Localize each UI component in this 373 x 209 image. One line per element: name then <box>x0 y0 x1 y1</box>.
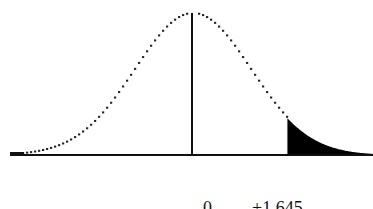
curve-dot <box>110 102 112 104</box>
curve-dot <box>66 141 68 143</box>
curve-dot <box>278 107 280 109</box>
curve-dot <box>198 13 200 15</box>
curve-dot <box>154 39 156 41</box>
critical-value-tick-label: +1.645 <box>252 199 303 209</box>
curve-dot <box>54 146 56 148</box>
curve-dot <box>258 80 260 82</box>
curve-dot <box>78 133 80 135</box>
curve-dot <box>238 50 240 52</box>
curve-dot <box>130 74 132 76</box>
curve-dot <box>274 102 276 104</box>
curve-dot <box>122 85 124 87</box>
curve-dot <box>138 62 140 64</box>
curve-dot <box>162 30 164 32</box>
curve-dot <box>202 14 204 16</box>
curve-dot <box>58 144 60 146</box>
curve-dot <box>178 16 180 18</box>
curve-dot <box>106 107 108 109</box>
curve-dot <box>206 16 208 18</box>
curve-dot <box>70 138 72 140</box>
curve-dot <box>214 22 216 24</box>
curve-dot <box>30 151 32 153</box>
curve-dot <box>166 26 168 28</box>
curve-dot <box>142 56 144 58</box>
curve-dot <box>86 127 88 129</box>
curve-dot <box>118 91 120 93</box>
curve-dot <box>186 13 188 15</box>
curve-dot <box>266 91 268 93</box>
curve-dot <box>170 22 172 24</box>
curve-dot <box>262 85 264 87</box>
curve-dot <box>210 19 212 21</box>
curve-dot <box>98 116 100 118</box>
normal-distribution-chart <box>0 0 373 209</box>
curve-dot <box>42 149 44 151</box>
curve-dot <box>182 14 184 16</box>
mean-tick-label: 0 <box>203 199 212 209</box>
curve-dot <box>94 120 96 122</box>
curve-dot <box>230 39 232 41</box>
curve-dot <box>50 147 52 149</box>
curve-dot <box>74 136 76 138</box>
curve-dot <box>282 111 284 113</box>
curve-dot <box>286 116 288 118</box>
curve-dot <box>242 56 244 58</box>
curve-dot <box>174 19 176 21</box>
curve-dot <box>34 151 36 153</box>
curve-dot <box>114 97 116 99</box>
curve-dot <box>270 97 272 99</box>
curve-dot <box>250 68 252 70</box>
curve-dot <box>234 45 236 47</box>
curve-dot <box>226 34 228 36</box>
curve-dot <box>158 34 160 36</box>
shaded-right-tail <box>287 118 373 155</box>
bell-curve <box>18 13 288 155</box>
curve-dot <box>134 68 136 70</box>
curve-dot <box>150 45 152 47</box>
curve-dot <box>246 62 248 64</box>
curve-dot <box>218 26 220 28</box>
curve-dot <box>90 124 92 126</box>
curve-dot <box>254 74 256 76</box>
curve-dot <box>126 80 128 82</box>
curve-dot <box>62 142 64 144</box>
curve-dot <box>146 50 148 52</box>
curve-dot <box>38 150 40 152</box>
curve-dot <box>26 152 28 154</box>
curve-dot <box>102 111 104 113</box>
left-tail-mark <box>10 152 24 155</box>
curve-dot <box>82 130 84 132</box>
curve-dot <box>222 30 224 32</box>
curve-dot <box>46 148 48 150</box>
